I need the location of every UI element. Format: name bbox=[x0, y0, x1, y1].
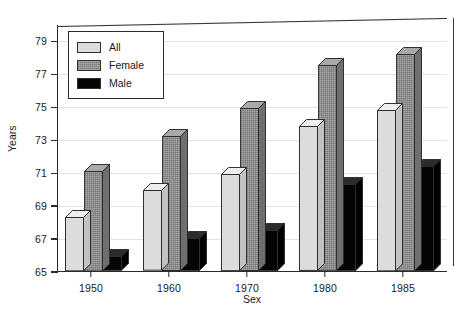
legend-label-male: Male bbox=[109, 78, 132, 89]
legend-item-male[interactable]: Male bbox=[77, 74, 156, 92]
y-axis-tick-label: 79 bbox=[35, 35, 47, 47]
y-axis-tick bbox=[51, 205, 58, 206]
legend-label-female: Female bbox=[109, 60, 144, 71]
y-axis-tick-label: 65 bbox=[35, 266, 47, 278]
legend-item-female[interactable]: Female bbox=[77, 56, 156, 74]
y-axis-tick bbox=[51, 74, 58, 75]
bar-all-1980[interactable] bbox=[299, 119, 325, 271]
x-axis-title: Sex bbox=[57, 293, 447, 305]
bar-all-1970[interactable] bbox=[221, 167, 247, 271]
bar-female-1985[interactable] bbox=[396, 47, 422, 271]
x-axis-tick bbox=[246, 271, 247, 277]
legend-swatch-all-icon bbox=[77, 42, 101, 53]
y-axis-tick-label: 69 bbox=[35, 200, 47, 212]
y-axis-tick bbox=[51, 41, 58, 42]
gridline bbox=[58, 206, 447, 207]
x-axis-tick bbox=[168, 271, 169, 277]
y-axis-tick bbox=[51, 107, 58, 108]
chart-figure: Years 6567697173757779195019601970198019… bbox=[0, 0, 469, 310]
gridline bbox=[58, 107, 447, 108]
bar-female-1960[interactable] bbox=[162, 129, 188, 271]
y-axis-tick-label: 67 bbox=[35, 233, 47, 245]
bar-male-1985[interactable] bbox=[415, 159, 441, 271]
y-axis-tick-label: 75 bbox=[35, 101, 47, 113]
y-axis-tick bbox=[51, 271, 58, 272]
y-axis-tick bbox=[51, 140, 58, 141]
y-axis-tick bbox=[51, 173, 58, 174]
y-axis-title: Years bbox=[6, 126, 18, 152]
bar-male-1950[interactable] bbox=[103, 249, 129, 271]
bar-all-1985[interactable] bbox=[377, 103, 403, 271]
x-axis-tick bbox=[324, 271, 325, 277]
gridline bbox=[58, 173, 447, 174]
gridline bbox=[58, 140, 447, 141]
panel-right-edge bbox=[453, 18, 454, 266]
bar-all-1960[interactable] bbox=[143, 183, 169, 271]
bar-male-1970[interactable] bbox=[259, 223, 285, 271]
bar-all-1950[interactable] bbox=[65, 210, 91, 271]
x-axis-tick bbox=[90, 271, 91, 277]
bar-male-1960[interactable] bbox=[181, 231, 207, 271]
gridline bbox=[58, 239, 447, 240]
y-axis-tick-label: 77 bbox=[35, 68, 47, 80]
y-axis-tick-label: 71 bbox=[35, 167, 47, 179]
bar-female-1970[interactable] bbox=[240, 101, 266, 271]
legend-swatch-female-icon bbox=[77, 60, 101, 71]
bar-female-1950[interactable] bbox=[84, 164, 110, 271]
chart-legend: All Female Male bbox=[68, 31, 164, 99]
y-axis-tick bbox=[51, 238, 58, 239]
legend-item-all[interactable]: All bbox=[77, 38, 156, 56]
bar-male-1980[interactable] bbox=[337, 177, 363, 271]
legend-label-all: All bbox=[109, 42, 121, 53]
x-axis-tick bbox=[402, 271, 403, 277]
y-axis-tick-label: 73 bbox=[35, 134, 47, 146]
legend-swatch-male-icon bbox=[77, 78, 101, 89]
